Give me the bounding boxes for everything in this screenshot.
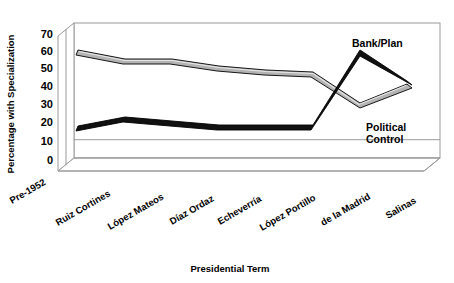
y-tick-50: 50 bbox=[41, 62, 53, 74]
chart-container: 70 60 50 40 30 20 10 0 Percentage with S… bbox=[0, 0, 454, 283]
x-tick-lopez-portillo: López Portillo bbox=[258, 192, 318, 233]
x-tick-lopez-mateos: López Mateos bbox=[106, 191, 166, 232]
x-tick-echeverria: Echeverría bbox=[216, 193, 264, 227]
x-tick-pre-1952: Pre-1952 bbox=[8, 176, 48, 205]
y-tick-20: 20 bbox=[41, 116, 53, 128]
x-tick-salinas: Salinas bbox=[384, 195, 418, 221]
x-axis-ticks: Pre-1952 Ruiz Cortines López Mateos Díaz… bbox=[8, 176, 418, 232]
y-tick-40: 40 bbox=[41, 80, 53, 92]
x-tick-de-la-madrid: de la Madrid bbox=[319, 190, 373, 227]
annotation-political-control-line1: Political bbox=[366, 121, 406, 133]
annotation-bank-plan: Bank/Plan bbox=[352, 37, 403, 49]
x-axis-title: Presidential Term bbox=[190, 263, 269, 274]
floor-panel bbox=[58, 158, 440, 171]
y-tick-10: 10 bbox=[41, 135, 53, 147]
y-axis-ticks: 70 60 50 40 30 20 10 0 bbox=[41, 28, 53, 166]
x-tick-diaz-ordaz: Díaz Ordaz bbox=[168, 193, 216, 227]
y-tick-70: 70 bbox=[41, 28, 53, 40]
x-tick-ruiz-cortines: Ruiz Cortines bbox=[54, 188, 113, 228]
y-tick-30: 30 bbox=[41, 98, 53, 110]
y-tick-60: 60 bbox=[41, 45, 53, 57]
y-tick-0: 0 bbox=[47, 154, 53, 166]
y-axis-title: Percentage with Specialization bbox=[5, 34, 16, 173]
annotation-political-control-line2: Control bbox=[366, 133, 403, 145]
chart-canvas: 70 60 50 40 30 20 10 0 Percentage with S… bbox=[0, 0, 454, 283]
